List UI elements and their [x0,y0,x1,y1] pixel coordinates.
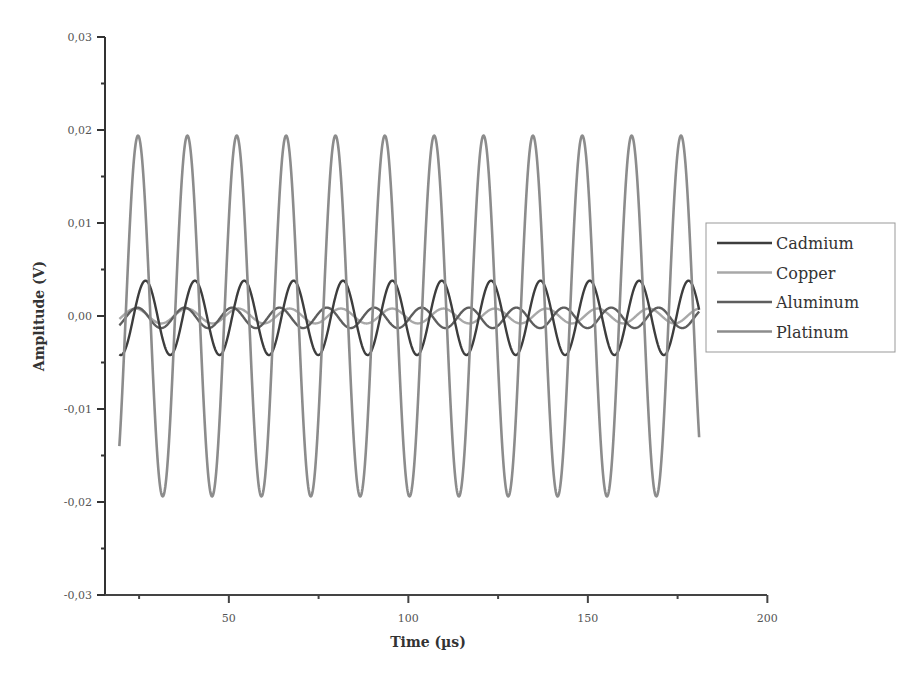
legend-label: Platinum [776,323,849,342]
y-tick-label: -0,02 [64,496,92,509]
y-ticks: -0,03-0,02-0,010,000,010,020,03 [64,31,105,602]
y-tick-label: 0,00 [68,310,93,323]
x-tick-label: 100 [398,612,419,625]
x-tick-label: 50 [222,612,236,625]
legend-label: Copper [776,264,836,283]
legend-label: Cadmium [776,234,854,253]
y-tick-label: -0,01 [64,403,92,416]
legend-label: Aluminum [775,293,859,312]
plot-series-group [119,136,699,497]
x-tick-label: 150 [577,612,598,625]
x-ticks: 50100150200 [139,595,778,625]
amplitude-time-chart: -0,03-0,02-0,010,000,010,020,03 50100150… [0,0,920,674]
y-tick-label: -0,03 [64,589,92,602]
y-tick-label: 0,01 [68,217,93,230]
legend: CadmiumCopperAluminumPlatinum [706,223,895,352]
y-axis-title: Amplitude (V) [31,261,47,372]
y-tick-label: 0,02 [68,124,93,137]
x-tick-label: 200 [757,612,778,625]
x-axis-title: Time (µs) [390,634,466,650]
y-tick-label: 0,03 [68,31,93,44]
